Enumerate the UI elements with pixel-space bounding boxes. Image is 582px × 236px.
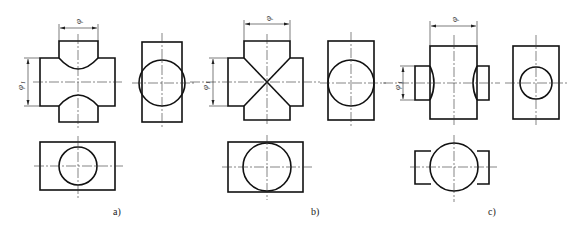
panel-b-side-view xyxy=(320,32,386,128)
panel-a-side-view xyxy=(132,33,195,128)
panel-c: φ φ 1 c) xyxy=(383,17,568,218)
panel-a-top-view xyxy=(34,136,123,200)
panel-b-dim-phi1: φ xyxy=(200,85,210,90)
panel-b: φ φ 1 b) xyxy=(190,16,386,218)
intersecting-cylinders-drawing: φ φ 1 a) xyxy=(0,0,582,236)
panel-a-dim-phi1: φ xyxy=(15,85,25,90)
svg-text:1: 1 xyxy=(20,81,26,84)
panel-c-top-view xyxy=(410,135,497,202)
svg-text:1: 1 xyxy=(205,81,211,84)
panel-c-side-view xyxy=(505,35,568,127)
panel-a-dim-phi: φ xyxy=(73,19,83,24)
panel-a-caption: a) xyxy=(113,206,121,218)
panel-b-top-view xyxy=(222,135,312,200)
panel-b-caption: b) xyxy=(311,206,319,218)
panel-a-front-view: φ φ 1 xyxy=(15,19,122,128)
svg-text:1: 1 xyxy=(397,81,403,84)
panel-b-dim-phi: φ xyxy=(263,16,273,21)
panel-c-caption: c) xyxy=(488,206,496,218)
panel-c-front-view: φ φ 1 xyxy=(383,17,500,127)
panel-c-dim-phi: φ xyxy=(449,17,459,22)
panel-b-front-view: φ φ 1 xyxy=(190,16,320,126)
panel-a: φ φ 1 a) xyxy=(15,19,195,218)
panel-c-dim-phi1: φ xyxy=(392,85,402,90)
